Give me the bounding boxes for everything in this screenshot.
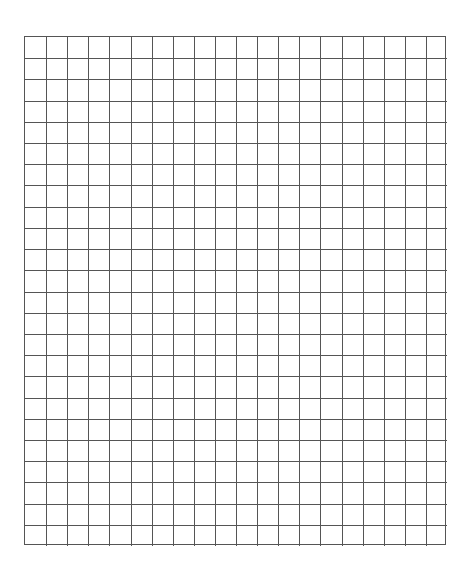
grid-lines [25, 37, 447, 546]
clipped-header-text [0, 0, 468, 6]
graph-paper-grid [24, 36, 446, 545]
